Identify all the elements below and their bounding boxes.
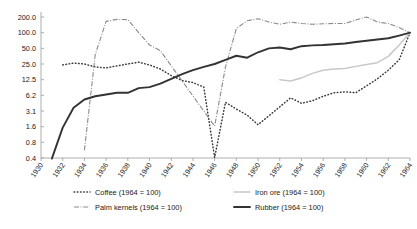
x-axis-tick-label: 1956 [311,161,328,179]
x-axis-tick-label: 1934 [72,161,89,179]
legend-label-palm_kernels: Palm kernels (1964 = 100) [95,203,182,212]
chart-legend: Coffee (1964 = 100)Iron ore (1964 = 100)… [74,188,325,212]
plot-area: 200.0100.050.025.012.56.23.11.60.80.4 19… [18,12,414,212]
x-axis-tick-label: 1962 [376,161,393,179]
y-axis-tick-label: 200.0 [18,13,36,22]
y-axis-tick-label: 12.5 [22,75,36,84]
legend-label-rubber: Rubber (1964 = 100) [255,203,323,212]
x-axis-tick-label: 1944 [181,161,198,179]
chart-figure: 200.0100.050.025.012.56.23.11.60.80.4 19… [0,0,417,229]
series-line-iron_ore [280,33,410,81]
x-axis-tick-label: 1930 [29,161,46,179]
x-axis-tick-label: 1950 [246,161,263,179]
y-axis-tick-label: 6.2 [26,91,36,100]
x-axis-tick-label: 1958 [332,161,349,179]
series-line-rubber [52,33,410,159]
y-axis-tick-label: 0.8 [26,138,36,147]
y-axis-tick-label: 1.6 [26,122,36,131]
legend-label-iron_ore: Iron ore (1964 = 100) [255,188,325,197]
y-axis: 200.0100.050.025.012.56.23.11.60.80.4 [18,12,44,163]
series-line-palm_kernels [84,17,410,150]
x-axis-tick-label: 1954 [289,161,306,179]
y-axis-tick-label: 0.4 [26,154,36,163]
x-axis-tick-label: 1964 [398,161,415,179]
x-axis-tick-label: 1936 [94,161,111,179]
commodity-index-line-chart: 200.0100.050.025.012.56.23.11.60.80.4 19… [0,0,417,229]
x-axis: 1930193219341936193819401942194419461948… [29,158,415,179]
data-series-group [52,17,410,159]
series-line-coffee [63,33,410,158]
legend-label-coffee: Coffee (1964 = 100) [95,188,161,197]
y-axis-tick-label: 100.0 [18,28,36,37]
x-axis-tick-label: 1960 [354,161,371,179]
x-axis-tick-label: 1932 [50,161,67,179]
y-axis-tick-label: 3.1 [26,107,36,116]
x-axis-tick-label: 1938 [115,161,132,179]
y-axis-tick-label: 50.0 [22,44,36,53]
x-axis-tick-label: 1948 [224,161,241,179]
x-axis-tick-label: 1946 [202,161,219,179]
y-axis-tick-label: 25.0 [22,60,36,69]
x-axis-tick-label: 1952 [267,161,284,179]
x-axis-tick-label: 1940 [137,161,154,179]
x-axis-tick-label: 1942 [159,161,176,179]
